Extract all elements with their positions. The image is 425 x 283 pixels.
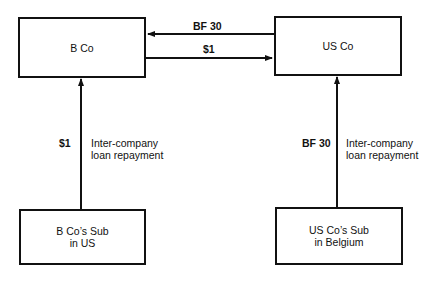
node-us-co-sub: US Co’s Sub in Belgium [275,207,403,265]
edge-ussub-to-us-description: Inter-company loan repayment [346,137,418,161]
node-b-co: B Co [18,17,146,78]
node-us-co-label: US Co [323,40,354,52]
node-b-co-sub: B Co’s Sub in US [19,209,146,265]
edge-us-to-b-amount: BF 30 [193,20,222,32]
edge-b-to-us-amount: $1 [203,43,215,55]
node-b-co-label: B Co [70,42,93,54]
node-us-co-sub-label: US Co’s Sub in Belgium [309,224,369,248]
edge-ussub-to-us-amount: BF 30 [302,137,331,149]
node-b-co-sub-label: B Co’s Sub in US [56,225,108,249]
edge-bsub-to-b-amount: $1 [59,137,71,149]
node-us-co: US Co [274,16,402,76]
edge-bsub-to-b-description: Inter-company loan repayment [91,137,163,161]
